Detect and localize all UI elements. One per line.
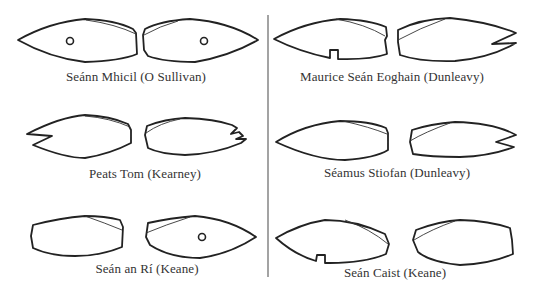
hole-mark-icon [67, 38, 74, 45]
left-ear-square-notch-icon [274, 19, 387, 59]
left-ear-pointed-icon [276, 121, 388, 160]
caption-peats-tom: Peats Tom (Kearney) [89, 166, 201, 182]
caption-sean-an-ri: Seán an Rí (Keane) [95, 261, 198, 277]
left-ear-cropped-icon [31, 216, 123, 256]
ear-marks-drawing [0, 0, 543, 290]
caption-maurice-sean-eoghain: Maurice Seán Eoghain (Dunleavy) [300, 69, 484, 85]
caption-seamus-stiofan: Séamus Stiofan (Dunleavy) [324, 165, 470, 181]
ear-marks-figure: Seánn Mhicil (O Sullivan) Maurice Seán E… [0, 0, 543, 290]
right-ear-swallow-tail-icon [398, 18, 516, 61]
right-ear-double-notch-icon [145, 118, 246, 155]
panel-5-ears [31, 216, 256, 258]
left-ear-pointed-icon [18, 19, 137, 62]
caption-sean-caist: Seán Caist (Keane) [344, 265, 446, 281]
panel-3-ears [27, 115, 246, 158]
panel-1-ears [18, 19, 258, 62]
hole-mark-icon [201, 38, 208, 45]
panel-4-ears [276, 121, 516, 160]
hole-mark-icon [199, 234, 206, 241]
right-ear-swallow-tail-icon [410, 122, 516, 157]
panel-6-ears [276, 220, 513, 265]
left-ear-square-notch-icon [276, 220, 389, 263]
right-ear-cropped-icon [413, 220, 513, 265]
caption-seann-mhicil: Seánn Mhicil (O Sullivan) [66, 69, 206, 85]
panel-2-ears [274, 18, 516, 61]
